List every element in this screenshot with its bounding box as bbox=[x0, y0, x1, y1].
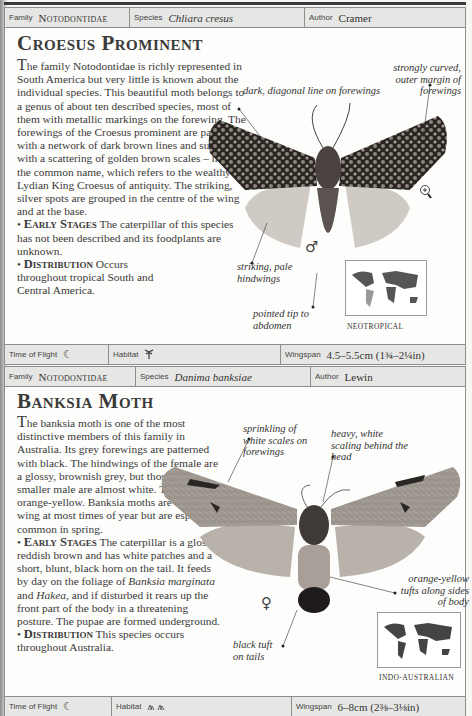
annotation-black-tuft: black tuft on tails bbox=[233, 639, 283, 662]
early-stages-heading: Early Stages bbox=[24, 217, 97, 231]
wingspan-label: Wingspan bbox=[296, 702, 332, 711]
species-entry-banksia-moth: Family Notodontidae Species Danima banks… bbox=[4, 366, 466, 716]
crescent-moon-icon: ☾ bbox=[63, 700, 73, 713]
annotation-dark-diagonal-line: dark, diagonal line on forewings bbox=[243, 85, 380, 97]
habitat-label: Habitat bbox=[113, 350, 138, 359]
plant-name-hakea: Hakea bbox=[36, 589, 66, 601]
species-entry-croesus-prominent: Family Notodontidae Species Chliara cres… bbox=[4, 7, 466, 365]
early-stages-paragraph: • Early Stages The caterpillar is a glos… bbox=[17, 536, 222, 628]
time-of-flight-label: Time of Flight bbox=[9, 702, 57, 711]
entry-body: The family Notodontidae is richly repres… bbox=[17, 58, 249, 298]
early-stages-heading: Early Stages bbox=[24, 535, 97, 549]
entry-title: Croesus Prominent bbox=[17, 31, 203, 56]
wingspan-cell: Wingspan 6–8cm (2⅜–3⅛in) bbox=[292, 697, 465, 716]
drop-cap: T bbox=[17, 413, 27, 430]
wingspan-value: 4.5–5.5cm (1¾–2¼in) bbox=[327, 349, 425, 361]
habitat-label: Habitat bbox=[116, 702, 141, 711]
early-stages-text-mid: and bbox=[17, 589, 36, 601]
magnify-icon[interactable] bbox=[419, 184, 433, 200]
intro-text: he banksia moth is one of the most disti… bbox=[17, 417, 221, 535]
distribution-heading: Distribution bbox=[24, 257, 93, 271]
family-value: Notodontidae bbox=[39, 12, 108, 24]
intro-paragraph: The family Notodontidae is richly repres… bbox=[17, 58, 249, 218]
species-cell: Species Danima banksiae bbox=[136, 367, 311, 386]
early-stages-paragraph: • Early Stages The caterpillar of this s… bbox=[17, 218, 249, 258]
species-label: Species bbox=[134, 13, 162, 22]
entry-footer: Time of Flight ☾ Habitat Wingspan 4.5–5.… bbox=[5, 344, 465, 364]
male-symbol: ♂ bbox=[305, 238, 318, 256]
plant-name-banksia: Banksia marginata bbox=[128, 575, 215, 587]
annotation-white-scaling-head: heavy, white scaling behind the head bbox=[331, 428, 411, 463]
author-value: Lewin bbox=[345, 371, 373, 383]
distribution-map-indo-australian bbox=[377, 612, 461, 668]
wingspan-label: Wingspan bbox=[285, 350, 321, 359]
entry-body: The banksia moth is one of the most dist… bbox=[17, 415, 222, 655]
family-cell: Family Notodontidae bbox=[5, 8, 130, 27]
habitat-cell: Habitat bbox=[112, 697, 292, 716]
author-cell: Author Cramer bbox=[305, 8, 465, 27]
region-label: Indo-Australian bbox=[379, 673, 454, 682]
world-map-icon bbox=[346, 261, 426, 315]
time-of-flight-cell: Time of Flight ☾ bbox=[5, 345, 109, 364]
family-label: Family bbox=[9, 372, 33, 381]
distribution-heading: Distribution bbox=[24, 627, 93, 641]
top-rule bbox=[4, 2, 466, 5]
time-of-flight-cell: Time of Flight ☾ bbox=[5, 697, 112, 716]
annotation-orange-yellow-tufts: orange-yellow tufts along sides of body bbox=[393, 573, 469, 608]
species-value: Chliara cresus bbox=[168, 12, 233, 24]
distribution-paragraph: • Distribution This species occurs throu… bbox=[17, 628, 222, 654]
species-label: Species bbox=[140, 372, 168, 381]
author-label: Author bbox=[315, 372, 339, 381]
entry-header: Family Notodontidae Species Danima banks… bbox=[5, 367, 465, 387]
region-label: Neotropical bbox=[347, 322, 403, 331]
intro-paragraph: The banksia moth is one of the most dist… bbox=[17, 415, 222, 536]
entry-footer: Time of Flight ☾ Habitat Wingspan 6–8cm … bbox=[5, 696, 465, 716]
habitat-cell: Habitat bbox=[109, 345, 281, 364]
entry-header: Family Notodontidae Species Chliara cres… bbox=[5, 8, 465, 28]
annotation-pale-hindwings: striking, pale hindwings bbox=[237, 261, 295, 284]
palm-tree-icon bbox=[144, 348, 154, 361]
drop-cap: T bbox=[17, 56, 27, 73]
crescent-moon-icon: ☾ bbox=[63, 348, 73, 361]
wingspan-cell: Wingspan 4.5–5.5cm (1¾–2¼in) bbox=[281, 345, 465, 364]
author-value: Cramer bbox=[339, 12, 372, 24]
author-cell: Author Lewin bbox=[311, 367, 465, 386]
time-of-flight-label: Time of Flight bbox=[9, 350, 57, 359]
shrubland-icon bbox=[147, 701, 167, 713]
author-label: Author bbox=[309, 13, 333, 22]
annotation-pointed-abdomen: pointed tip to abdomen bbox=[253, 308, 323, 331]
wingspan-value: 6–8cm (2⅜–3⅛in) bbox=[338, 701, 420, 713]
species-cell: Species Chliara cresus bbox=[130, 8, 305, 27]
world-map-icon bbox=[378, 613, 460, 667]
annotation-curved-outer-margin: strongly curved, outer margin of forewin… bbox=[385, 62, 461, 97]
family-label: Family bbox=[9, 13, 33, 22]
female-symbol: ♀ bbox=[261, 594, 272, 612]
family-value: Notodontidae bbox=[39, 371, 108, 383]
species-value: Danima banksiae bbox=[174, 371, 251, 383]
entry-title: Banksia Moth bbox=[17, 389, 154, 414]
annotation-white-scales: sprinkling of white scales on forewings bbox=[243, 423, 315, 458]
family-cell: Family Notodontidae bbox=[5, 367, 136, 386]
distribution-map-neotropical bbox=[345, 260, 427, 316]
distribution-paragraph: • Distribution Occurs throughout tropica… bbox=[17, 258, 177, 298]
intro-text: he family Notodontidae is richly represe… bbox=[17, 60, 246, 217]
